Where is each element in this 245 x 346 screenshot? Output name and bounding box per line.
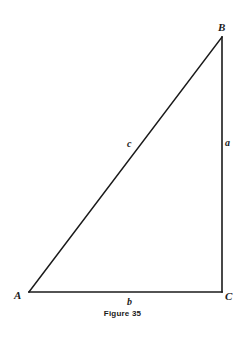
side-c-hypotenuse — [29, 37, 222, 292]
vertex-label-b-upper: B — [218, 22, 225, 33]
vertex-label-a-upper: A — [14, 290, 21, 301]
side-label-a: a — [225, 138, 230, 148]
side-label-c: c — [127, 139, 131, 149]
triangle-figure: B A C c a b Figure 35 — [0, 0, 245, 346]
vertex-label-c-upper: C — [225, 291, 232, 302]
side-label-b: b — [127, 297, 132, 307]
figure-caption: Figure 35 — [0, 310, 245, 318]
triangle-drawing — [0, 0, 245, 346]
